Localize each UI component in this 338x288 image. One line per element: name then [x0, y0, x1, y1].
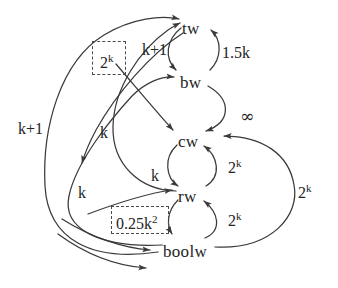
node-rw[interactable]: rw: [178, 188, 197, 205]
edge-label-boolw-rw: 2k: [228, 213, 242, 229]
edge-label-boolw-cw: 2k: [298, 185, 312, 201]
edge-cw-rw: [168, 145, 178, 186]
edge-label-boolw-tw: k+1: [18, 121, 43, 137]
edge-rw-boolw: [168, 200, 178, 234]
edge-boolw-cw: [215, 136, 295, 247]
boxed-label-2k: 2k: [100, 55, 114, 71]
edge-label-tw-bw: k+1: [142, 42, 167, 58]
edge-label-cw-rw: k: [151, 168, 159, 184]
edge-bw-tw: [210, 30, 219, 70]
edge-label-infinity: ∞: [240, 108, 254, 125]
node-tw[interactable]: tw: [182, 20, 200, 37]
edge-label-rw-tw: k: [100, 125, 108, 141]
edge-label-boolw-bw: k: [78, 185, 86, 201]
boxed-label-025k2: 0.25k2: [116, 216, 158, 232]
edge-bw-cw: [206, 86, 225, 131]
edge-boolw-rw: [204, 201, 217, 238]
edge-label-bw-tw: 1.5k: [222, 45, 250, 61]
edge-label-rw-cw: 2k: [228, 160, 242, 176]
edge-rw-cw: [204, 146, 216, 186]
node-bw[interactable]: bw: [180, 74, 201, 91]
node-cw[interactable]: cw: [178, 133, 198, 150]
edge-tw-bw: [168, 28, 181, 70]
node-boolw[interactable]: boolw: [163, 243, 207, 260]
